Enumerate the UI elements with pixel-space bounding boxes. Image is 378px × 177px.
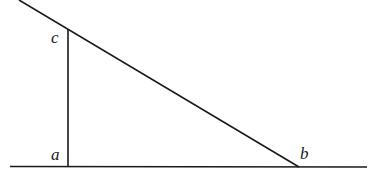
- baseline: [10, 167, 367, 168]
- geometry-diagram: c a b: [0, 0, 378, 177]
- label-c: c: [51, 28, 59, 47]
- label-b: b: [300, 144, 309, 163]
- diagonal-line-cb: [19, 0, 299, 167]
- label-a: a: [51, 145, 60, 164]
